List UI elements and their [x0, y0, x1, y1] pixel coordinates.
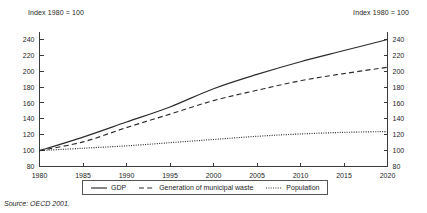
- y-tick-label-left: 200: [23, 68, 35, 75]
- chart-legend: GDP Generation of municipal waste Popula…: [82, 180, 328, 195]
- y-tick-label-right: 200: [393, 68, 405, 75]
- x-tick-label: 2005: [249, 172, 265, 179]
- legend-item-waste: Generation of municipal waste: [139, 184, 253, 191]
- x-tick-label: 2015: [336, 172, 352, 179]
- y-tick-label-left: 140: [23, 115, 35, 122]
- source-note: Source: OECD 2001.: [4, 200, 70, 207]
- y-tick-label-right: 180: [393, 84, 405, 91]
- y-tick-label-left: 160: [23, 100, 35, 107]
- y-tick-label-left: 80: [27, 163, 35, 170]
- x-tick-label: 1995: [162, 172, 178, 179]
- chart-axes: [40, 32, 388, 167]
- y-tick-label-left: 180: [23, 84, 35, 91]
- x-tick-label: 2020: [380, 172, 396, 179]
- x-tick-label: 1985: [75, 172, 91, 179]
- legend-label-gdp: GDP: [111, 184, 126, 191]
- y-tick-label-right: 80: [393, 163, 401, 170]
- chart-tick-labels: 8010012014016018020022024080100120140160…: [23, 36, 404, 178]
- legend-label-population: Population: [286, 184, 319, 191]
- y-tick-label-right: 220: [393, 52, 405, 59]
- chart-series: [40, 39, 388, 150]
- y-tick-label-right: 120: [393, 131, 405, 138]
- series-line-gdp: [40, 39, 388, 150]
- y-tick-label-left: 220: [23, 52, 35, 59]
- series-line-waste: [40, 67, 388, 150]
- legend-item-population: Population: [266, 184, 319, 191]
- chart-figure: Index 1980 = 100 Index 1980 = 100 801001…: [0, 0, 427, 213]
- x-tick-label: 1980: [32, 172, 48, 179]
- legend-swatch-waste: [139, 185, 155, 191]
- y-tick-label-left: 240: [23, 36, 35, 43]
- legend-label-waste: Generation of municipal waste: [159, 184, 253, 191]
- y-tick-label-right: 100: [393, 147, 405, 154]
- legend-swatch-gdp: [91, 185, 107, 191]
- x-tick-label: 2000: [206, 172, 222, 179]
- y-tick-label-right: 240: [393, 36, 405, 43]
- x-tick-label: 2010: [293, 172, 309, 179]
- y-tick-label-right: 140: [393, 115, 405, 122]
- x-tick-label: 1990: [119, 172, 135, 179]
- legend-swatch-population: [266, 185, 282, 191]
- legend-item-gdp: GDP: [91, 184, 126, 191]
- y-tick-label-left: 120: [23, 131, 35, 138]
- y-tick-label-right: 160: [393, 100, 405, 107]
- y-tick-label-left: 100: [23, 147, 35, 154]
